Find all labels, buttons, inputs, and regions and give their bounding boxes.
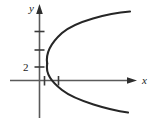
y-axis-label: y xyxy=(28,2,34,14)
x-axis-arrowhead xyxy=(127,77,137,84)
parabola-upper-branch xyxy=(47,12,130,64)
y-axis-arrowhead xyxy=(36,4,43,14)
graph-figure: y x 2 xyxy=(0,0,153,128)
y-axis-tick-label-2: 2 xyxy=(23,61,29,73)
graph-canvas: y x 2 xyxy=(0,0,153,128)
x-axis-label: x xyxy=(141,74,147,86)
parabola-lower-branch xyxy=(47,64,128,113)
